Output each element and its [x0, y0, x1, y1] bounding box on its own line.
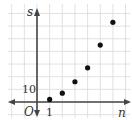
data-point — [60, 91, 65, 96]
data-point — [110, 20, 115, 25]
scatter-chart: s n O 1 10 — [0, 0, 132, 120]
y-axis-up-arrow-icon — [34, 8, 40, 16]
y-axis-label: s — [27, 5, 33, 19]
data-point — [47, 97, 52, 102]
x-tick-label-1: 1 — [46, 106, 53, 119]
x-axis-right-arrow-icon — [124, 99, 131, 105]
x-axis-label: n — [118, 106, 126, 120]
data-point — [72, 79, 77, 84]
data-point — [98, 42, 103, 47]
y-tick-label-10: 10 — [22, 83, 36, 96]
y-axis-down-arrow-icon — [34, 110, 40, 117]
origin-label: O — [24, 105, 34, 119]
data-point — [85, 65, 90, 70]
